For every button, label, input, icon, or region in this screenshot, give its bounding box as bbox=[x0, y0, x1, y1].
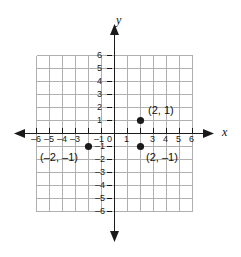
y-tick-3: 3 bbox=[97, 90, 102, 99]
y-tick-2: 2 bbox=[97, 103, 102, 112]
point-marker-2-neg1 bbox=[137, 143, 144, 150]
x-tick-neg5: –5 bbox=[44, 135, 54, 144]
x-tick-neg4: –4 bbox=[57, 135, 67, 144]
point-label-neg2-neg1: (–2, –1) bbox=[40, 152, 78, 163]
y-tick-neg3: –3 bbox=[95, 168, 105, 177]
y-tick-neg6: –6 bbox=[95, 207, 105, 216]
x-tick-neg1: –1 bbox=[94, 135, 104, 144]
y-tick-1: 1 bbox=[97, 116, 102, 125]
x-tick-6: 6 bbox=[189, 135, 194, 144]
x-tick-neg6: –6 bbox=[31, 135, 41, 144]
y-tick-neg2: –2 bbox=[95, 155, 105, 164]
y-tick-4: 4 bbox=[97, 77, 102, 86]
point-label-2-neg1: (2, –1) bbox=[146, 152, 178, 163]
y-tick-neg4: –4 bbox=[95, 181, 105, 190]
coordinate-plane-figure: y x 6 5 4 3 2 1 –1 –2 –3 –4 –5 –6 0 –6 –… bbox=[0, 0, 241, 257]
x-axis-name: x bbox=[222, 126, 227, 138]
x-tick-5: 5 bbox=[176, 135, 181, 144]
y-tick-neg5: –5 bbox=[95, 194, 105, 203]
y-tick-6: 6 bbox=[97, 51, 102, 60]
point-marker-2-1 bbox=[137, 117, 144, 124]
y-axis-name: y bbox=[116, 14, 121, 26]
x-tick-neg3: –3 bbox=[70, 135, 80, 144]
point-label-2-1: (2, 1) bbox=[148, 105, 174, 116]
origin-label: 0 bbox=[107, 135, 112, 144]
point-marker-neg2-neg1 bbox=[85, 143, 92, 150]
x-tick-3: 3 bbox=[150, 135, 155, 144]
y-tick-5: 5 bbox=[97, 64, 102, 73]
x-tick-1: 1 bbox=[124, 135, 129, 144]
coordinate-plane-svg bbox=[0, 0, 241, 257]
x-tick-4: 4 bbox=[163, 135, 168, 144]
